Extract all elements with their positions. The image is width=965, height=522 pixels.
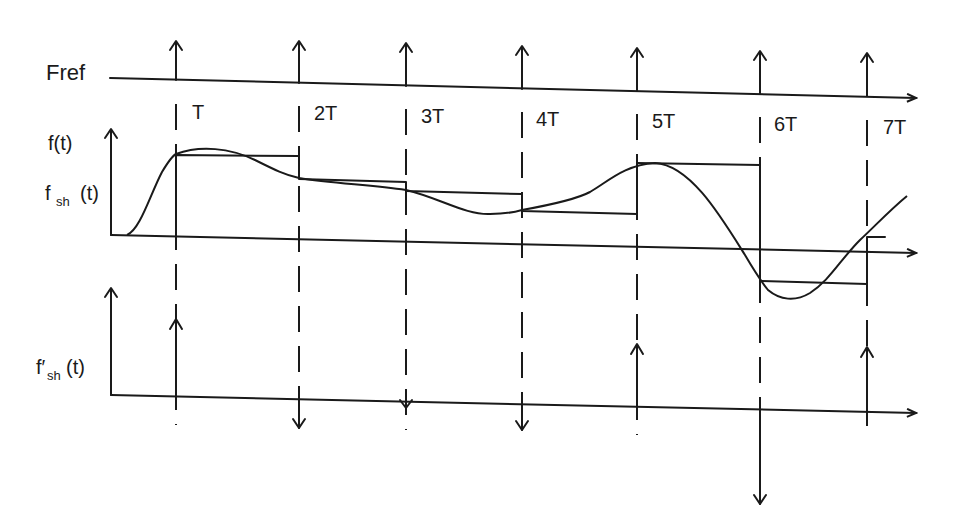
time-label-6T: 6T	[774, 113, 797, 135]
fsh-label: f sh (t)	[45, 182, 99, 209]
sample-hold-staircase	[176, 155, 885, 284]
fref-impulse-icon	[754, 51, 766, 94]
fref-impulses	[170, 41, 873, 96]
time-label-7T: 7T	[883, 116, 906, 138]
fref-label: Fref	[46, 60, 86, 85]
fref-impulse-icon	[170, 41, 182, 80]
svg-text:sh: sh	[56, 194, 70, 209]
time-label-3T: 3T	[421, 105, 444, 127]
sampling-guide-lines	[176, 104, 867, 440]
derivative-row: f′ sh (t)	[36, 288, 916, 504]
fref-impulse-icon	[516, 46, 528, 89]
fref-impulse-icon	[400, 43, 412, 86]
fsh-prime-label: f′ sh (t)	[36, 356, 85, 383]
time-label-T: T	[192, 101, 204, 123]
derivative-impulses	[170, 319, 873, 504]
impulse-down-icon	[400, 400, 412, 408]
sample-and-hold-timing-diagram: Fref T 2T 3T 4T 5T 6T 7T f(t)	[0, 0, 965, 522]
svg-text:f′: f′	[36, 356, 46, 378]
time-label-5T: 5T	[652, 110, 675, 132]
impulse-down-icon	[516, 403, 528, 430]
fref-row: Fref	[46, 41, 916, 98]
impulse-up-icon	[631, 344, 643, 406]
time-label-4T: 4T	[536, 108, 559, 130]
impulse-up-icon	[170, 319, 182, 396]
svg-text:f: f	[45, 182, 51, 204]
derivative-time-axis	[111, 395, 916, 413]
svg-text:(t): (t)	[80, 182, 99, 204]
fref-time-axis	[110, 78, 916, 98]
impulse-up-icon	[861, 347, 873, 410]
ft-label: f(t)	[48, 132, 72, 154]
svg-text:(t): (t)	[66, 356, 85, 378]
time-label-2T: 2T	[314, 102, 337, 124]
svg-text:sh: sh	[47, 368, 61, 383]
continuous-signal-curve	[127, 149, 907, 299]
impulse-down-icon	[754, 408, 766, 504]
fref-impulse-icon	[861, 53, 873, 96]
fref-impulse-icon	[293, 41, 305, 83]
signal-time-axis	[111, 235, 916, 253]
fref-impulse-icon	[631, 48, 643, 91]
impulse-down-icon	[293, 398, 305, 428]
